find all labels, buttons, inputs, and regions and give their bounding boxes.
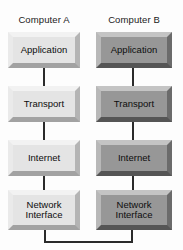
connector-b-application-transport <box>132 68 134 86</box>
layer-label-line1: Network <box>27 199 62 210</box>
connector-a-internet-network-interface <box>43 176 45 190</box>
layer-label: Internet <box>116 153 152 164</box>
layer-box-a-internet: Internet <box>8 140 80 176</box>
column-heading-computer-a: Computer A <box>8 14 80 25</box>
layer-box-b-network-interface: Network Interface <box>96 190 172 230</box>
layer-label: Application <box>109 45 159 56</box>
layer-label: Transport <box>112 99 156 110</box>
connector-a-application-transport <box>43 68 45 86</box>
layer-box-a-transport: Transport <box>8 86 80 122</box>
layer-label: Application <box>19 45 69 56</box>
layer-box-b-application: Application <box>96 32 172 68</box>
diagram-canvas: Computer A Computer B Application Transp… <box>0 0 183 250</box>
connector-a-transport-internet <box>43 122 45 140</box>
layer-box-a-network-interface: Network Interface <box>8 190 80 230</box>
layer-label-line1: Network <box>117 199 152 210</box>
layer-box-b-internet: Internet <box>96 140 172 176</box>
layer-label: Network Interface <box>24 200 65 221</box>
physical-link-right-segment <box>131 230 133 243</box>
connector-b-internet-network-interface <box>132 176 134 190</box>
layer-label: Transport <box>22 99 66 110</box>
layer-label: Network Interface <box>114 200 155 221</box>
layer-box-b-transport: Transport <box>96 86 172 122</box>
column-heading-computer-b: Computer B <box>95 14 173 25</box>
physical-link-bottom-segment <box>44 241 133 243</box>
connector-b-transport-internet <box>132 122 134 140</box>
layer-box-a-application: Application <box>8 32 80 68</box>
layer-label-line2: Interface <box>116 209 153 220</box>
layer-label-line2: Interface <box>26 209 63 220</box>
layer-label: Internet <box>26 153 62 164</box>
